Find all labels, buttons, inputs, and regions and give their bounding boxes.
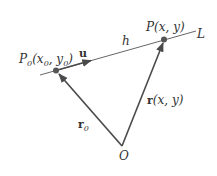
label-p0-x: (x	[32, 52, 44, 66]
label-p0-y: , y	[49, 52, 64, 66]
label-h: h	[122, 34, 130, 48]
label-p0: P0(x0, y0)	[18, 52, 73, 68]
label-u: u	[79, 47, 87, 60]
label-r-args: (x, y)	[153, 93, 184, 107]
point-p0	[53, 68, 59, 74]
label-p0-close: )	[67, 52, 73, 66]
point-p	[161, 37, 167, 43]
label-origin: O	[119, 149, 129, 163]
label-p: P(x, y)	[145, 20, 185, 34]
vector-r0	[59, 74, 122, 146]
label-r0: r0	[78, 118, 89, 133]
label-l: L	[196, 27, 205, 41]
label-r0-sub: 0	[84, 124, 89, 133]
diagram-canvas: P0(x0, y0) u h P(x, y) L r(x, y) r0 O	[0, 0, 217, 176]
label-r: r(x, y)	[147, 93, 184, 107]
